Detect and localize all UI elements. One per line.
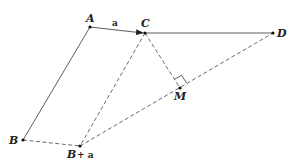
label-vector-a: a (112, 18, 118, 28)
point-d (271, 31, 274, 34)
segment-c-ba (80, 33, 145, 146)
segment-b-ba (23, 140, 80, 146)
label-c: C (141, 17, 150, 30)
label-m: M (173, 90, 187, 103)
label-b-plus-a-suffix: + a (77, 150, 94, 160)
label-d: D (276, 27, 287, 40)
label-b: B (8, 134, 18, 147)
segment-a-b (23, 27, 90, 140)
point-b (21, 138, 24, 141)
label-b-plus-a: B (66, 148, 76, 161)
geometry-diagram: A a C D M B B + a (0, 0, 297, 168)
point-b-plus-a (78, 144, 81, 147)
point-c (143, 31, 146, 34)
right-angle-marker (175, 75, 187, 83)
point-a (88, 25, 91, 28)
segment-c-m (145, 33, 180, 88)
label-a: A (85, 12, 95, 25)
